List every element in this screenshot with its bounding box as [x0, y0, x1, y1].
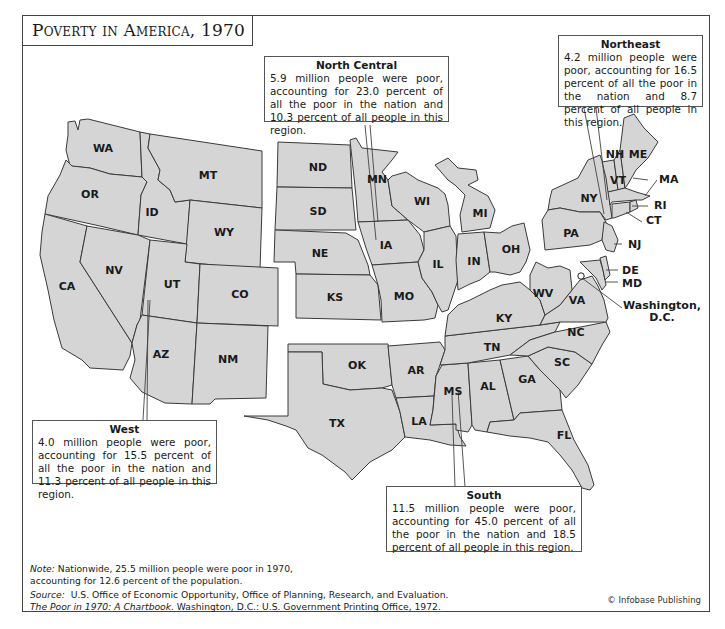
state-label-mn: MN — [367, 173, 387, 186]
state-label-az: AZ — [153, 348, 170, 361]
state-label-ma: MA — [659, 173, 678, 186]
state-label-wy: WY — [214, 226, 234, 239]
region-heading: South — [392, 489, 576, 502]
state-label-or: OR — [81, 188, 99, 201]
state-label-sc: SC — [554, 356, 570, 369]
state-label-il: IL — [432, 258, 443, 271]
state-label-ct: CT — [646, 214, 662, 227]
state-ct[interactable] — [612, 202, 630, 218]
state-label-in: IN — [467, 255, 480, 268]
capital-label: Washington, D.C. — [622, 300, 702, 324]
state-label-wv: WV — [533, 287, 554, 300]
state-label-co: CO — [231, 288, 248, 301]
state-label-nv: NV — [105, 264, 123, 277]
state-label-sd: SD — [309, 205, 326, 218]
state-label-nh: NH — [606, 148, 624, 161]
state-label-tx: TX — [329, 417, 345, 430]
region-text: 5.9 million people were poor, accounting… — [270, 72, 443, 136]
region-box-northeast: Northeast 4.2 million people were poor, … — [558, 35, 703, 107]
region-text: 11.5 million people were poor, accountin… — [392, 502, 576, 553]
state-label-ks: KS — [327, 291, 343, 304]
state-label-tn: TN — [484, 341, 501, 354]
state-label-vt: VT — [610, 174, 626, 187]
state-label-wa: WA — [93, 142, 113, 155]
region-box-west: West 4.0 million people were poor, accou… — [32, 420, 217, 484]
region-text: 4.0 million people were poor, accounting… — [38, 436, 211, 500]
note-line-2: accounting for 12.6 percent of the popul… — [30, 575, 242, 586]
state-label-mt: MT — [199, 169, 217, 182]
state-label-ms: MS — [444, 385, 463, 398]
state-label-nm: NM — [218, 353, 238, 366]
state-label-ar: AR — [408, 364, 425, 377]
state-label-ok: OK — [348, 359, 366, 372]
source-line-1: U.S. Office of Economic Opportunity, Off… — [71, 589, 449, 600]
state-label-me: ME — [629, 148, 647, 161]
state-label-va: VA — [569, 294, 585, 307]
region-box-north-central: North Central 5.9 million people were po… — [264, 56, 449, 122]
state-label-de: DE — [622, 264, 639, 277]
state-label-ga: GA — [518, 373, 536, 386]
state-label-id: ID — [145, 206, 158, 219]
capital-star-icon — [578, 273, 584, 279]
state-label-nd: ND — [309, 161, 327, 174]
state-label-ca: CA — [59, 280, 76, 293]
footer-source: Source: U.S. Office of Economic Opportun… — [30, 589, 448, 612]
state-label-ne: NE — [312, 247, 329, 260]
state-label-ny: NY — [580, 192, 597, 205]
state-label-md: MD — [622, 277, 642, 290]
note-label: Note: — [30, 563, 55, 574]
source-title: The Poor in 1970: A Chartbook — [30, 601, 171, 612]
state-label-nc: NC — [567, 326, 584, 339]
region-heading: West — [38, 423, 211, 436]
source-label: Source: — [30, 589, 65, 600]
state-label-ky: KY — [496, 312, 513, 325]
source-line-2: . Washington, D.C.: U.S. Government Prin… — [171, 601, 441, 612]
region-heading: North Central — [270, 59, 443, 72]
state-label-fl: FL — [557, 429, 572, 442]
region-box-south: South 11.5 million people were poor, acc… — [386, 486, 582, 552]
state-label-al: AL — [480, 380, 496, 393]
state-label-ut: UT — [164, 278, 180, 291]
note-line-1: Nationwide, 25.5 million people were poo… — [58, 563, 293, 574]
state-fl[interactable] — [487, 410, 594, 490]
state-label-ri: RI — [654, 199, 667, 212]
state-nj[interactable] — [602, 222, 618, 252]
state-label-ia: IA — [380, 239, 393, 252]
region-text: 4.2 million people were poor, accounting… — [564, 51, 697, 128]
region-heading: Northeast — [564, 38, 697, 51]
footer-note: Note: Nationwide, 25.5 million people we… — [30, 563, 293, 586]
state-label-mi: MI — [472, 207, 487, 220]
state-label-oh: OH — [502, 243, 521, 256]
publisher-credit: © Infobase Publishing — [607, 595, 701, 605]
state-label-wi: WI — [414, 195, 430, 208]
state-label-nj: NJ — [628, 238, 641, 251]
state-label-la: LA — [411, 415, 427, 428]
state-label-mo: MO — [394, 290, 414, 303]
state-label-pa: PA — [563, 227, 579, 240]
